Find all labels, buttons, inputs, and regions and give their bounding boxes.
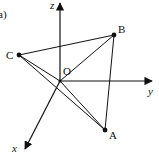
- point-A: [103, 128, 108, 133]
- z-axis-label: z: [50, 0, 54, 11]
- point-B-label: B: [118, 24, 125, 35]
- segment-CO: [19, 55, 60, 81]
- panel-label: a): [0, 9, 7, 20]
- y-axis-label: y: [148, 86, 153, 97]
- point-O-label: O: [63, 66, 71, 77]
- segment-OA: [60, 81, 105, 130]
- x-axis: [25, 81, 60, 149]
- diagram-canvas: [0, 0, 159, 156]
- point-C-label: C: [6, 50, 13, 61]
- segment-BA: [105, 35, 114, 130]
- point-C: [17, 53, 22, 58]
- point-A-label: A: [109, 130, 117, 141]
- point-B: [112, 33, 117, 38]
- segment-CA: [19, 55, 105, 130]
- segment-CB: [19, 35, 114, 55]
- tetrahedron-diagram: a) z y x B C O A: [0, 0, 159, 156]
- x-axis-label: x: [12, 143, 17, 154]
- point-O: [58, 79, 61, 82]
